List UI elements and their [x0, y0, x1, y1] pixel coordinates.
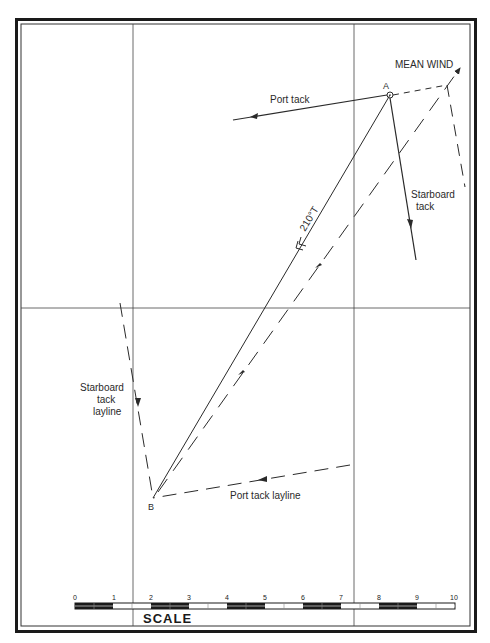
port-tack-arrow-icon — [250, 113, 258, 119]
starboard-layline-label-2: tack — [97, 394, 116, 405]
svg-text:8: 8 — [377, 594, 381, 601]
dashed-corner-down — [447, 85, 465, 187]
svg-text:1: 1 — [112, 594, 116, 601]
scale-title: SCALE — [143, 611, 192, 626]
port-tack-label: Port tack — [270, 94, 310, 105]
starboard-layline-arrow-icon — [135, 398, 141, 407]
starboard-tack-label-1: Starboard — [411, 189, 455, 200]
starboard-layline-label-3: layline — [93, 406, 122, 417]
port-layline-label: Port tack layline — [230, 490, 301, 501]
point-b-label: B — [148, 502, 154, 512]
port-layline-arrow-icon — [258, 476, 267, 482]
outer-frame — [17, 20, 476, 632]
inner-frame — [21, 24, 470, 626]
bearing-arrow-icon — [296, 237, 306, 250]
mean-wind-line — [158, 68, 460, 492]
svg-text:6: 6 — [301, 594, 305, 601]
starboard-tack-label-2: tack — [416, 201, 435, 212]
svg-text:9: 9 — [415, 594, 419, 601]
svg-text:7: 7 — [339, 594, 343, 601]
starboard-tack-arrow-icon — [407, 219, 413, 229]
svg-text:0: 0 — [73, 594, 77, 601]
svg-text:3: 3 — [187, 594, 191, 601]
scale-bar — [75, 603, 455, 609]
svg-text:10: 10 — [450, 594, 458, 601]
svg-text:2: 2 — [149, 594, 153, 601]
svg-text:4: 4 — [225, 594, 229, 601]
starboard-tack-line — [390, 98, 416, 260]
starboard-layline-label-1: Starboard — [80, 382, 124, 393]
point-a-label: A — [383, 81, 389, 91]
dashed-a-corner — [393, 85, 447, 95]
rhumb-line — [153, 95, 390, 498]
mean-wind-label: MEAN WIND — [395, 59, 453, 70]
svg-text:5: 5 — [263, 594, 267, 601]
scale-ticks: 0 1 2 3 4 5 6 7 8 9 10 — [73, 594, 458, 601]
tactical-diagram: 210°T MEAN WIND A Port tack Starboard ta… — [0, 0, 490, 643]
